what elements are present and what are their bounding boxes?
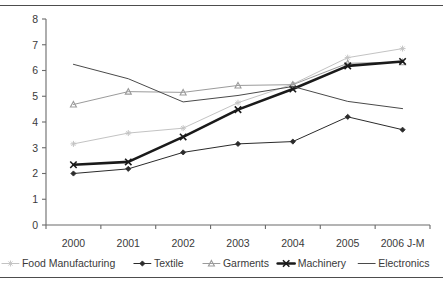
legend-item-textile[interactable]: Textile (134, 257, 184, 269)
series-machinery (70, 58, 406, 168)
legend-item-food-manufacturing[interactable]: Food Manufacturing (2, 257, 116, 269)
legend-label: Electronics (378, 257, 429, 269)
series-textile (71, 114, 405, 176)
legend-label: Food Manufacturing (22, 257, 116, 269)
chart-figure: 012345678 2000200120022003200420052006 J… (0, 0, 443, 287)
line-chart: 012345678 2000200120022003200420052006 J… (0, 5, 443, 277)
series-food-manufacturing (70, 46, 405, 147)
x-axis-category-label: 2006 J-M (381, 237, 425, 249)
y-tick-label: 8 (32, 13, 38, 25)
chart-series (70, 46, 406, 176)
y-tick-label: 2 (32, 167, 38, 179)
legend-item-garments[interactable]: Garments (203, 257, 269, 269)
legend-item-machinery[interactable]: Machinery (278, 257, 347, 269)
x-axis-category-label: 2003 (226, 237, 250, 249)
x-axis-category-label: 2000 (62, 237, 86, 249)
y-tick-label: 1 (32, 193, 38, 205)
x-axis-category-label: 2001 (117, 237, 141, 249)
y-tick-label: 0 (32, 219, 38, 231)
bottom-divider-rule (0, 277, 443, 278)
legend-label: Garments (223, 257, 269, 269)
x-axis-category-label: 2002 (171, 237, 195, 249)
legend-label: Machinery (298, 257, 347, 269)
chart-legend: Food ManufacturingTextileGarmentsMachine… (2, 257, 430, 269)
y-tick-label: 4 (32, 116, 38, 128)
y-tick-label: 5 (32, 90, 38, 102)
y-tick-label: 7 (32, 39, 38, 51)
legend-item-electronics[interactable]: Electronics (358, 257, 429, 269)
legend-label: Textile (154, 257, 184, 269)
y-tick-label: 6 (32, 64, 38, 76)
x-axis-category-label: 2005 (336, 237, 360, 249)
x-axis-category-label: 2004 (281, 237, 305, 249)
x-axis-labels: 2000200120022003200420052006 J-M (62, 237, 425, 249)
y-tick-label: 3 (32, 142, 38, 154)
